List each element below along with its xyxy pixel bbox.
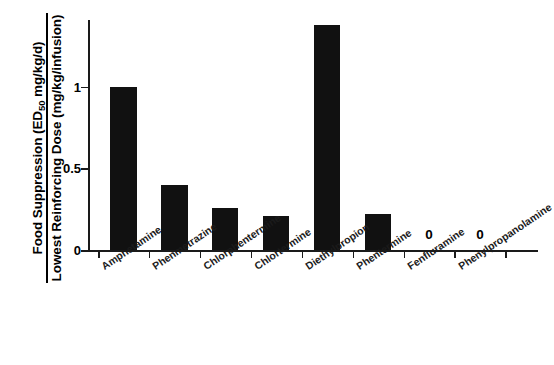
y-axis-label-fraction: Food Suppression (ED50 mg/kg/d) Lowest R… (30, 13, 64, 284)
y-axis-label-denominator: Lowest Reinforcing Dose (mg/kg/infusion) (48, 13, 64, 284)
y-axis-label: Food Suppression (ED50 mg/kg/d) Lowest R… (19, 23, 75, 273)
x-axis-tick (353, 252, 355, 258)
x-axis-tick (98, 252, 100, 258)
x-axis-tick (302, 252, 304, 258)
y-axis-tick (81, 250, 88, 252)
y-axis-line (88, 20, 90, 252)
x-axis-tick (454, 252, 456, 258)
x-axis-tick (404, 252, 406, 258)
y-axis-label-numerator-prefix: Food Suppression (ED (30, 111, 45, 255)
y-axis-label-numerator-suffix: mg/kg/d) (30, 42, 45, 101)
bar (314, 25, 340, 250)
y-axis-tick (81, 87, 88, 89)
y-axis-tick (81, 168, 88, 170)
x-axis-tick (200, 252, 202, 258)
y-axis-tick-label: 0.5 (63, 161, 81, 176)
y-axis-tick-label: 0 (74, 243, 81, 258)
bar-value-label: 0 (476, 227, 484, 242)
bar (110, 87, 136, 250)
x-axis-tick (251, 252, 253, 258)
y-axis-label-subscript: 50 (36, 101, 47, 111)
plot-area: 00.51 00 (88, 20, 538, 252)
y-axis-label-numerator: Food Suppression (ED50 mg/kg/d) (30, 40, 46, 257)
x-axis-tick (149, 252, 151, 258)
x-axis-tick (505, 252, 507, 258)
y-axis-tick-label: 1 (74, 79, 81, 94)
bar-value-label: 0 (425, 227, 433, 242)
